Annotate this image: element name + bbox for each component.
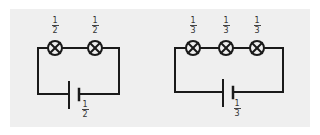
denominator: 2 <box>48 27 62 34</box>
left-circuit-wires <box>38 48 119 94</box>
left-bulb-1-icon <box>48 41 62 55</box>
numerator: 1 <box>78 101 92 108</box>
denominator: 3 <box>250 27 264 34</box>
left-battery-label: 1 2 <box>78 101 92 118</box>
denominator: 2 <box>88 27 102 34</box>
left-bulb-2-icon <box>88 41 102 55</box>
denominator: 3 <box>219 27 233 34</box>
denominator: 3 <box>230 110 244 117</box>
right-battery-label: 1 3 <box>230 100 244 117</box>
right-bulb-2-icon <box>219 41 233 55</box>
right-bulb-3-icon <box>250 41 264 55</box>
numerator: 1 <box>250 17 264 24</box>
right-bulb-2-label: 1 3 <box>219 17 233 34</box>
numerator: 1 <box>219 17 233 24</box>
left-bulb-2-label: 1 2 <box>88 17 102 34</box>
numerator: 1 <box>186 17 200 24</box>
denominator: 2 <box>78 111 92 118</box>
right-bulb-1-label: 1 3 <box>186 17 200 34</box>
denominator: 3 <box>186 27 200 34</box>
numerator: 1 <box>230 100 244 107</box>
right-bulb-1-icon <box>186 41 200 55</box>
numerator: 1 <box>88 17 102 24</box>
left-bulb-1-label: 1 2 <box>48 17 62 34</box>
right-bulb-3-label: 1 3 <box>250 17 264 34</box>
numerator: 1 <box>48 17 62 24</box>
